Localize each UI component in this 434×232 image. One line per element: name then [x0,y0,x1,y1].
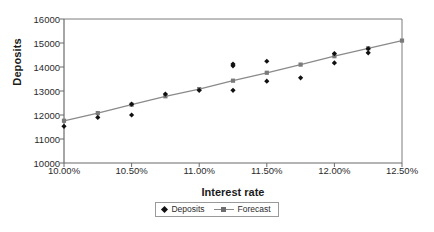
legend-label-forecast: Forecast [238,205,271,214]
x-axis-title: Interest rate [64,186,402,198]
legend-item-deposits[interactable]: Deposits [162,205,204,214]
chart-legend: Deposits Forecast [0,202,434,217]
legend-label-deposits: Deposits [171,205,204,214]
x-axis-ticks [64,163,402,167]
diamond-marker-icon [161,206,168,213]
forecast-data-points [62,39,404,123]
chart-container: Deposits 16000 15000 14000 13000 12000 1… [0,0,434,232]
line-square-marker-icon [214,206,234,213]
legend-item-forecast[interactable]: Forecast [214,205,271,214]
